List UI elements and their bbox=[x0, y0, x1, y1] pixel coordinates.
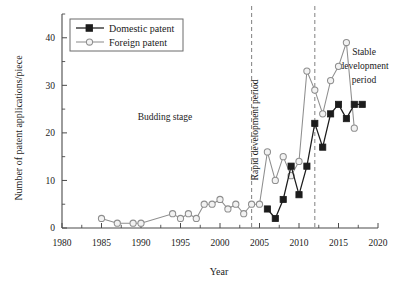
x-tick-label: 1990 bbox=[132, 238, 151, 248]
data-point-marker bbox=[201, 201, 207, 207]
data-point-marker bbox=[272, 215, 278, 221]
x-tick-label: 1995 bbox=[171, 238, 190, 248]
x-tick-label: 2000 bbox=[211, 238, 230, 248]
y-axis-tick-labels: 010203040 bbox=[46, 33, 56, 233]
data-point-marker bbox=[328, 77, 334, 83]
legend-swatch-domestic-marker bbox=[86, 25, 93, 32]
annotation-stable-development-period-line3: period bbox=[352, 75, 377, 85]
data-point-marker bbox=[256, 201, 262, 207]
data-point-marker bbox=[114, 220, 120, 226]
x-tick-label: 2020 bbox=[369, 238, 388, 248]
x-tick-label: 2010 bbox=[290, 238, 309, 248]
y-tick-label: 40 bbox=[46, 33, 56, 43]
x-axis-ticks bbox=[62, 223, 378, 228]
data-point-marker bbox=[296, 158, 302, 164]
x-tick-label: 1985 bbox=[92, 238, 111, 248]
data-point-marker bbox=[328, 111, 334, 117]
data-point-marker bbox=[320, 111, 326, 117]
data-point-marker bbox=[185, 211, 191, 217]
x-tick-label: 1980 bbox=[53, 238, 72, 248]
data-point-marker bbox=[351, 125, 357, 131]
data-point-marker bbox=[351, 101, 357, 107]
annotation-stable-development-period-line2: development bbox=[339, 61, 388, 71]
chart-legend: Domestic patent Foreign patent bbox=[70, 19, 183, 51]
data-point-marker bbox=[130, 220, 136, 226]
data-point-marker bbox=[335, 63, 341, 69]
chart-container: 010203040 198019851990199520002005201020… bbox=[0, 0, 406, 286]
data-point-marker bbox=[241, 211, 247, 217]
data-point-marker bbox=[225, 206, 231, 212]
data-point-marker bbox=[359, 101, 365, 107]
data-point-marker bbox=[320, 144, 326, 150]
data-point-marker bbox=[288, 163, 294, 169]
data-point-marker bbox=[280, 196, 286, 202]
data-point-marker bbox=[177, 215, 183, 221]
y-axis-ticks bbox=[62, 14, 67, 228]
legend-label-domestic-patent: Domestic patent bbox=[109, 23, 174, 34]
data-point-marker bbox=[272, 177, 278, 183]
data-point-marker bbox=[343, 39, 349, 45]
annotation-budding-stage: Budding stage bbox=[138, 112, 193, 122]
x-axis-tick-labels: 198019851990199520002005201020152020 bbox=[53, 238, 388, 248]
data-point-marker bbox=[304, 163, 310, 169]
data-point-marker bbox=[217, 196, 223, 202]
data-point-marker bbox=[249, 201, 255, 207]
y-tick-label: 0 bbox=[50, 223, 55, 233]
data-point-marker bbox=[98, 215, 104, 221]
y-tick-label: 10 bbox=[46, 176, 56, 186]
data-point-marker bbox=[193, 215, 199, 221]
x-tick-label: 2005 bbox=[250, 238, 269, 248]
data-point-marker bbox=[264, 206, 270, 212]
y-tick-label: 30 bbox=[46, 81, 56, 91]
data-point-marker bbox=[312, 120, 318, 126]
legend-swatch-foreign-marker bbox=[86, 39, 92, 45]
data-point-marker bbox=[170, 211, 176, 217]
data-point-marker bbox=[335, 101, 341, 107]
data-point-marker bbox=[209, 201, 215, 207]
data-point-marker bbox=[312, 87, 318, 93]
x-axis-title: Year bbox=[210, 266, 229, 277]
annotation-stable-development-period-line1: Stable bbox=[352, 47, 376, 57]
patent-applications-line-chart: 010203040 198019851990199520002005201020… bbox=[0, 0, 406, 286]
y-tick-label: 20 bbox=[46, 128, 56, 138]
annotation-rapid-development-period: Rapid development period bbox=[250, 79, 260, 180]
data-point-marker bbox=[138, 220, 144, 226]
y-axis-title: Number of patent applications/piece bbox=[13, 55, 24, 201]
data-point-marker bbox=[296, 192, 302, 198]
data-point-marker bbox=[264, 149, 270, 155]
data-point-marker bbox=[343, 116, 349, 122]
data-point-marker bbox=[304, 68, 310, 74]
legend-label-foreign-patent: Foreign patent bbox=[109, 37, 167, 48]
x-tick-label: 2015 bbox=[329, 238, 348, 248]
data-point-marker bbox=[280, 154, 286, 160]
data-point-marker bbox=[233, 201, 239, 207]
series-line bbox=[102, 43, 355, 224]
